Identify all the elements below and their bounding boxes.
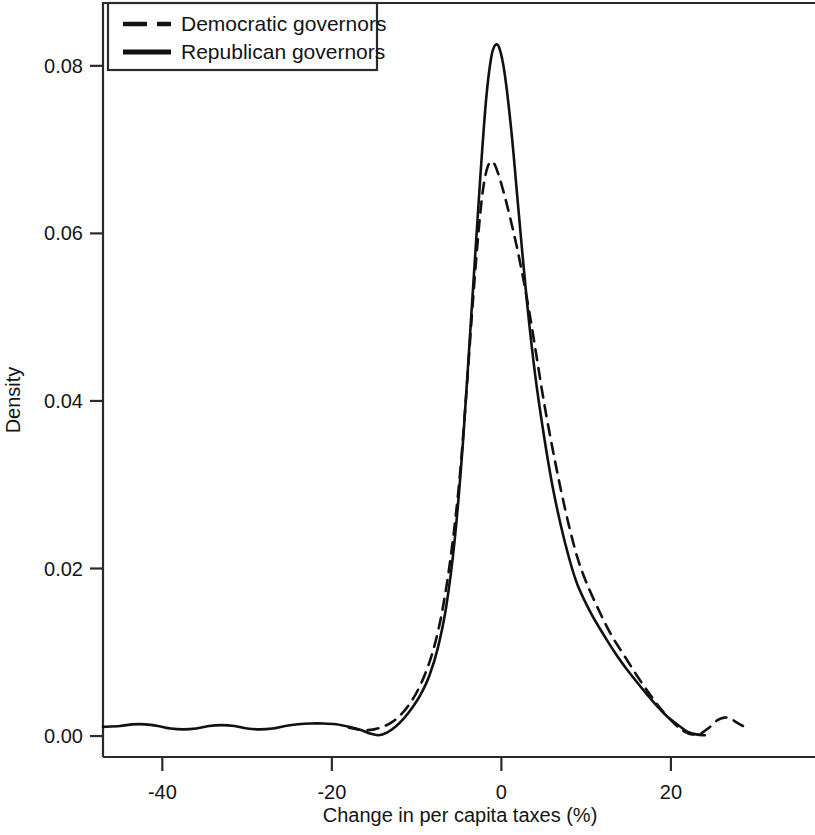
y-axis-ticks: 0.000.020.040.060.08 <box>44 55 103 747</box>
legend: Democratic governors Republican governor… <box>108 3 386 70</box>
curve-republican-governors <box>103 44 705 735</box>
frame-border <box>103 3 815 757</box>
x-tick-label: -40 <box>148 781 177 803</box>
series-group <box>103 44 743 735</box>
x-tick-label: 0 <box>496 781 507 803</box>
plot-frame <box>103 3 815 757</box>
legend-label-democratic: Democratic governors <box>181 12 386 35</box>
y-tick-label: 0.06 <box>44 222 83 244</box>
x-tick-label: 20 <box>660 781 682 803</box>
y-tick-label: 0.00 <box>44 725 83 747</box>
x-axis-title: Change in per capita taxes (%) <box>323 804 598 826</box>
x-tick-label: -20 <box>317 781 346 803</box>
chart-canvas: 0.000.020.040.060.08 -40-20020 Density C… <box>0 0 815 835</box>
x-axis-ticks: -40-20020 <box>148 757 682 803</box>
y-tick-label: 0.02 <box>44 558 83 580</box>
density-plot-figure: 0.000.020.040.060.08 -40-20020 Density C… <box>0 0 815 835</box>
y-tick-label: 0.04 <box>44 390 83 412</box>
legend-label-republican: Republican governors <box>181 40 385 63</box>
y-tick-label: 0.08 <box>44 55 83 77</box>
y-axis-title: Density <box>2 367 24 434</box>
